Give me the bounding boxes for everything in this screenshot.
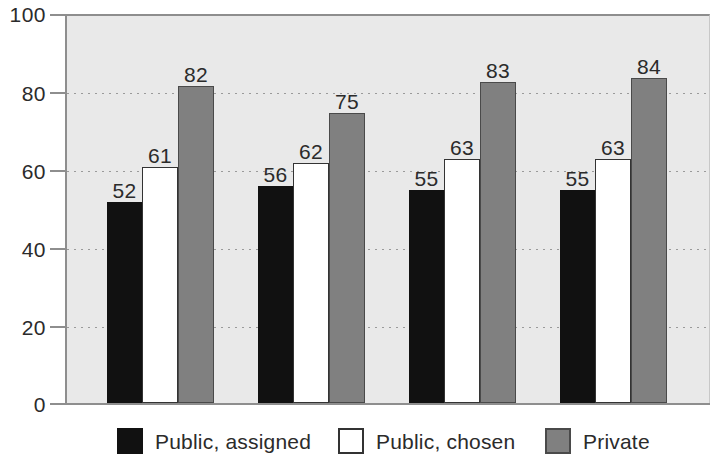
y-tick-label-0: 0: [0, 394, 46, 415]
bar-assigned-3[interactable]: 55: [409, 190, 444, 403]
y-tick-label-60: 60: [0, 161, 46, 182]
y-tick-mark-60: [50, 170, 65, 172]
white-square-icon: [338, 428, 364, 454]
plot-surface: 52 61 82 56 62 75 55 63: [67, 16, 709, 403]
gridline-80: [67, 93, 709, 94]
y-tick-label-100: 100: [0, 4, 46, 25]
bar-private-3[interactable]: 83: [480, 82, 516, 403]
y-tick-label-40: 40: [0, 239, 46, 260]
bar-value-label: 56: [264, 163, 288, 186]
bar-value-label: 55: [415, 167, 439, 190]
bar-value-label: 75: [335, 90, 359, 113]
y-tick-mark-80: [50, 92, 65, 94]
legend-label: Private: [583, 430, 650, 453]
bar-chart: 100 80 60 40 20 0 52 61 82: [0, 0, 713, 471]
legend-item-public-chosen[interactable]: Public, chosen: [338, 424, 515, 458]
bar-assigned-1[interactable]: 52: [107, 202, 142, 403]
y-tick-label-80: 80: [0, 83, 46, 104]
bar-assigned-2[interactable]: 56: [258, 186, 293, 403]
x-axis-baseline: [50, 403, 710, 405]
bar-value-label: 84: [637, 55, 661, 78]
bar-value-label: 62: [299, 140, 323, 163]
legend: Public, assigned Public, chosen Private: [0, 424, 713, 471]
bar-value-label: 63: [601, 136, 625, 159]
black-square-icon: [117, 428, 143, 454]
gray-square-icon: [545, 428, 571, 454]
bar-chosen-1[interactable]: 61: [142, 167, 178, 403]
y-tick-mark-100: [50, 14, 65, 16]
y-tick-label-20: 20: [0, 317, 46, 338]
bar-private-1[interactable]: 82: [178, 86, 214, 403]
legend-label: Public, assigned: [155, 430, 311, 453]
bar-value-label: 63: [450, 136, 474, 159]
bar-value-label: 82: [184, 63, 208, 86]
bar-chosen-3[interactable]: 63: [444, 159, 480, 403]
bar-chosen-4[interactable]: 63: [595, 159, 631, 403]
bar-assigned-4[interactable]: 55: [560, 190, 595, 403]
legend-item-private[interactable]: Private: [545, 424, 650, 458]
bar-private-2[interactable]: 75: [329, 113, 365, 403]
plot-area: 52 61 82 56 62 75 55 63: [65, 14, 710, 403]
bar-chosen-2[interactable]: 62: [293, 163, 329, 403]
bar-value-label: 52: [113, 179, 137, 202]
y-tick-mark-40: [50, 248, 65, 250]
y-tick-mark-20: [50, 326, 65, 328]
legend-label: Public, chosen: [376, 430, 515, 453]
bar-value-label: 83: [486, 59, 510, 82]
y-axis: 100 80 60 40 20 0: [0, 0, 46, 420]
bar-value-label: 61: [148, 144, 172, 167]
bar-private-4[interactable]: 84: [631, 78, 667, 403]
legend-item-public-assigned[interactable]: Public, assigned: [117, 424, 311, 458]
bar-value-label: 55: [566, 167, 590, 190]
